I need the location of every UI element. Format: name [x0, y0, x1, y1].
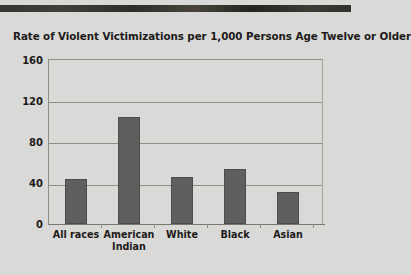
- bar-american-indian: [118, 117, 140, 224]
- y-tick-label-120: 120: [3, 96, 43, 107]
- x-axis-line: [48, 224, 325, 225]
- y-tick-label-160: 160: [3, 55, 43, 66]
- x-label-american-indian-line2: Indian: [94, 241, 164, 253]
- y-tick-label-40: 40: [3, 178, 43, 189]
- x-label-asian-line1: Asian: [253, 229, 323, 241]
- x-tick-2: [154, 224, 155, 228]
- bars-layer: [48, 59, 323, 224]
- bar-asian: [277, 192, 299, 224]
- bar-black: [224, 169, 246, 224]
- bar-all-races: [65, 179, 87, 224]
- x-tick-3: [207, 224, 208, 228]
- source-caption: [0, 267, 351, 275]
- x-label-asian: Asian: [253, 229, 323, 241]
- y-tick-label-80: 80: [3, 137, 43, 148]
- y-axis: 160 120 80 40 0: [0, 0, 43, 275]
- y-tick-label-0: 0: [3, 219, 43, 230]
- bar-white: [171, 177, 193, 224]
- chart-title: Rate of Violent Victimizations per 1,000…: [13, 30, 411, 42]
- x-tick-1: [101, 224, 102, 228]
- scan-artifact-band: [0, 5, 351, 12]
- x-tick-5: [313, 224, 314, 228]
- x-tick-4: [260, 224, 261, 228]
